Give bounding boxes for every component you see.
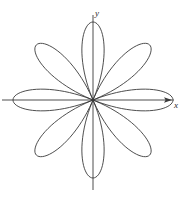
y-axis-label: y	[95, 9, 99, 18]
polar-rose-figure: y x	[0, 0, 185, 200]
rose-curve-plot	[0, 0, 185, 200]
x-axis-label: x	[174, 101, 178, 110]
